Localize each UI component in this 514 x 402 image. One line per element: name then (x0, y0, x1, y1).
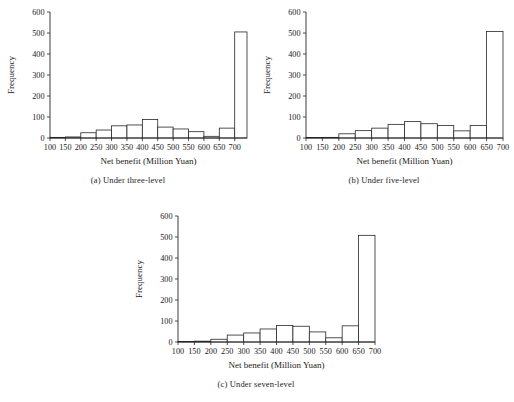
histogram-bar (487, 32, 503, 138)
histogram-bar (142, 120, 157, 138)
histogram-bar (293, 326, 309, 342)
y-tick-label: 400 (32, 50, 44, 59)
y-axis-title: Frequency (6, 56, 16, 94)
y-axis-title: Frequency (262, 56, 272, 94)
subcaption-a: (a) Under three-level (0, 175, 256, 185)
y-tick-label: 0 (296, 134, 300, 143)
histogram-bar (227, 335, 243, 342)
y-axis-title: Frequency (134, 260, 144, 298)
x-tick-label: 550 (182, 143, 194, 152)
x-axis-title: Net benefit (Million Yuan) (357, 156, 453, 166)
x-tick-label: 450 (415, 143, 427, 152)
histogram-bar (309, 332, 325, 342)
x-tick-label: 200 (333, 143, 345, 152)
x-tick-label: 250 (90, 143, 102, 152)
x-tick-label: 200 (205, 347, 217, 356)
x-tick-label: 350 (382, 143, 394, 152)
x-tick-label: 300 (238, 347, 250, 356)
histogram-bar (454, 131, 470, 138)
histogram-bar (158, 127, 173, 138)
histogram-bar (219, 128, 234, 138)
axis-lines (178, 216, 375, 342)
y-tick-label: 300 (288, 71, 300, 80)
y-tick-label: 500 (288, 29, 300, 38)
y-tick-label: 0 (168, 338, 172, 347)
histogram-bar (339, 134, 355, 138)
y-tick-label: 100 (288, 113, 300, 122)
y-tick-label: 400 (288, 50, 300, 59)
histogram-bar (244, 333, 260, 342)
y-tick-label: 200 (32, 92, 44, 101)
x-tick-label: 100 (172, 347, 184, 356)
histogram-chart-c: 0100200300400500600100150200250300350400… (128, 206, 384, 378)
histogram-bar (437, 125, 453, 138)
axis-lines (306, 12, 503, 138)
x-tick-label: 250 (221, 347, 233, 356)
histogram-bar (359, 235, 375, 342)
histogram-bar (96, 130, 111, 138)
y-tick-label: 500 (160, 233, 172, 242)
subcaption-c: (c) Under seven-level (128, 379, 384, 389)
x-tick-label: 600 (336, 347, 348, 356)
histogram-bar (342, 326, 358, 342)
histogram-bar (355, 131, 371, 138)
x-tick-label: 500 (431, 143, 443, 152)
y-tick-label: 600 (288, 8, 300, 17)
x-tick-label: 450 (152, 143, 164, 152)
y-tick-label: 300 (32, 71, 44, 80)
x-axis-title: Net benefit (Million Yuan) (101, 156, 197, 166)
y-tick-label: 300 (160, 275, 172, 284)
x-tick-label: 650 (352, 347, 364, 356)
figure-panel-a: 0100200300400500600100150200250300350400… (0, 2, 256, 198)
x-tick-label: 700 (229, 143, 241, 152)
histogram-bar (235, 32, 247, 138)
x-tick-label: 700 (497, 143, 509, 152)
histogram-bar (388, 124, 404, 138)
histogram-bar (372, 128, 388, 138)
figure-panel-c: 0100200300400500600100150200250300350400… (128, 206, 384, 402)
x-tick-label: 650 (480, 143, 492, 152)
x-tick-label: 150 (59, 143, 71, 152)
histogram-bar (173, 129, 188, 138)
histogram-bar (405, 122, 421, 138)
y-tick-label: 0 (40, 134, 44, 143)
y-tick-label: 400 (160, 254, 172, 263)
x-tick-label: 650 (213, 143, 225, 152)
histogram-bar (81, 133, 96, 138)
histogram-chart-a: 0100200300400500600100150200250300350400… (0, 2, 256, 174)
x-tick-label: 450 (287, 347, 299, 356)
histogram-bar (421, 124, 437, 138)
x-tick-label: 100 (44, 143, 56, 152)
y-tick-label: 500 (32, 29, 44, 38)
x-tick-label: 150 (316, 143, 328, 152)
figure-panel-b: 0100200300400500600100150200250300350400… (256, 2, 512, 198)
y-tick-label: 100 (32, 113, 44, 122)
x-tick-label: 300 (105, 143, 117, 152)
y-tick-label: 200 (288, 92, 300, 101)
x-tick-label: 400 (136, 143, 148, 152)
x-tick-label: 550 (448, 143, 460, 152)
y-tick-label: 200 (160, 296, 172, 305)
histogram-bar (112, 126, 127, 138)
axis-lines (50, 12, 247, 138)
histogram-bar (470, 125, 486, 138)
x-tick-label: 550 (320, 347, 332, 356)
histogram-bar (127, 125, 142, 138)
y-tick-label: 600 (32, 8, 44, 17)
x-tick-label: 100 (300, 143, 312, 152)
x-tick-label: 300 (366, 143, 378, 152)
x-tick-label: 400 (398, 143, 410, 152)
subcaption-b: (b) Under five-level (256, 175, 512, 185)
x-tick-label: 400 (270, 347, 282, 356)
x-tick-label: 250 (349, 143, 361, 152)
histogram-bar (260, 329, 276, 342)
x-tick-label: 350 (121, 143, 133, 152)
histogram-bar (189, 132, 204, 138)
histogram-bar (326, 338, 342, 342)
x-tick-label: 700 (369, 347, 381, 356)
histogram-bar (277, 325, 293, 342)
x-tick-label: 200 (75, 143, 87, 152)
x-tick-label: 600 (464, 143, 476, 152)
x-tick-label: 600 (198, 143, 210, 152)
x-tick-label: 350 (254, 347, 266, 356)
